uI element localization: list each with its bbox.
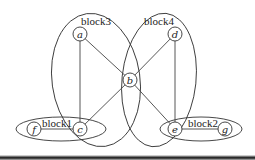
bottom-border-bar	[0, 155, 255, 160]
edge-a-b	[80, 34, 130, 80]
edge-b-e	[130, 80, 175, 129]
block4-label: block4	[144, 15, 174, 27]
node-a-label: a	[77, 29, 83, 40]
node-g: g	[218, 122, 232, 136]
edge-b-d	[130, 34, 175, 80]
block-graph-diagram: block3 block4 block1 block2 a b c d e f	[0, 0, 255, 160]
node-c: c	[73, 122, 87, 136]
node-c-label: c	[77, 124, 83, 135]
block3-label: block3	[81, 15, 111, 27]
node-g-label: g	[222, 124, 228, 135]
node-b: b	[123, 73, 137, 87]
node-f: f	[27, 122, 41, 136]
block1-label: block1	[42, 117, 72, 129]
node-e: e	[168, 122, 182, 136]
block-labels: block3 block4 block1 block2	[42, 15, 218, 129]
node-d: d	[168, 27, 182, 41]
block2-label: block2	[188, 117, 218, 129]
node-b-label: b	[127, 75, 133, 86]
node-e-label: e	[172, 124, 178, 135]
node-a: a	[73, 27, 87, 41]
node-d-label: d	[172, 29, 178, 40]
